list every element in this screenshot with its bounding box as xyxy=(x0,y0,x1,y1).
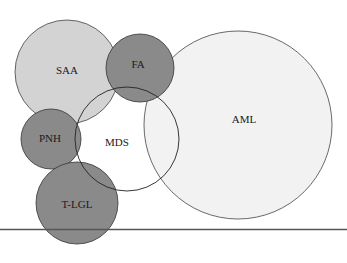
label-tlgl: T-LGL xyxy=(62,198,93,210)
label-pnh: PNH xyxy=(39,132,61,144)
label-saa: SAA xyxy=(56,64,78,76)
venn-diagram: SAA FA AML PNH MDS T-LGL xyxy=(0,0,347,263)
label-aml: AML xyxy=(232,113,257,125)
label-fa: FA xyxy=(131,58,144,70)
label-mds: MDS xyxy=(105,136,129,148)
